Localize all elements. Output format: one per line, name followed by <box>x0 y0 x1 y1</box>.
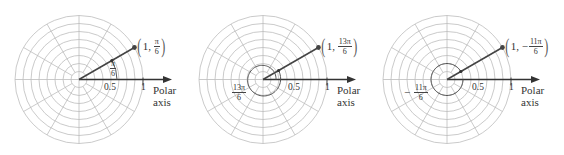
polar-grid-2 <box>184 0 372 155</box>
polar-axis-label-2: Polar axis <box>337 84 360 108</box>
polar-axis-arrowhead-icon <box>163 76 172 83</box>
tick-label-half-1: 0.5 <box>104 83 116 93</box>
point-label-3: (1, − 11π6 ) <box>504 36 549 56</box>
radius-ray <box>79 48 134 80</box>
polar-panel-2: (1, 13π6 ) 13π6 0.5 1 Polar axis <box>184 0 372 155</box>
tick-label-one-1: 1 <box>141 83 146 93</box>
tick-label-one-2: 1 <box>325 83 330 93</box>
polar-axis-arrowhead-icon <box>347 76 356 83</box>
angle-label-3: − 11π6 <box>404 83 428 102</box>
radius-ray <box>263 48 318 80</box>
angle-arrowhead-icon <box>459 70 462 73</box>
polar-grid-3 <box>368 0 564 155</box>
point-label-1: (1, π6 ) <box>136 36 166 56</box>
polar-panel-3: (1, − 11π6 ) − 11π6 0.5 1 Polar axis <box>368 0 556 155</box>
polar-axis-label-1: Polar axis <box>153 84 176 108</box>
point-label-2: (1, 13π6 ) <box>320 36 358 56</box>
tick-label-half-2: 0.5 <box>288 83 300 93</box>
polar-axis-arrowhead-icon <box>531 76 540 83</box>
angle-label-2: 13π6 <box>232 83 246 102</box>
radius-ray <box>447 48 502 80</box>
tick-label-one-3: 1 <box>509 83 514 93</box>
polar-axis-label-3: Polar axis <box>521 84 544 108</box>
angle-arrowhead-icon <box>277 69 280 72</box>
polar-panel-1: (1, π6 ) π6 0.5 1 Polar axis <box>0 0 188 155</box>
polar-grid-1 <box>0 0 188 155</box>
angle-label-1: π6 <box>110 59 116 78</box>
tick-label-half-3: 0.5 <box>472 83 484 93</box>
